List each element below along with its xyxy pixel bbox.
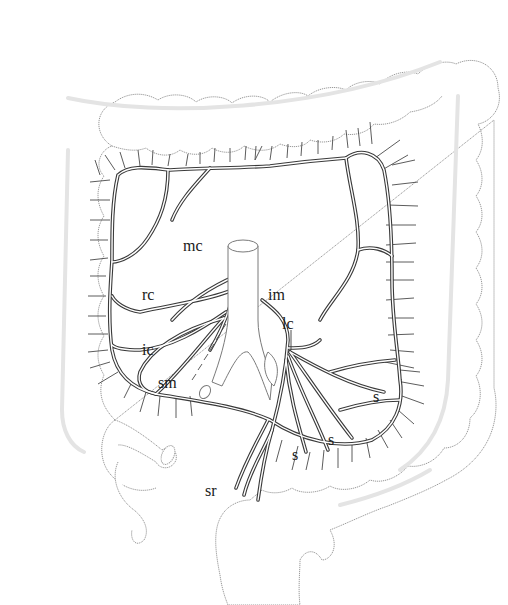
label-sigmoid-3: s [292, 447, 298, 463]
label-superior-mesenteric: sm [158, 375, 177, 391]
colon-outline [98, 60, 499, 605]
label-middle-colic: mc [183, 238, 203, 254]
colon-artery-diagram [0, 0, 508, 605]
label-sigmoid-2: s [328, 432, 334, 448]
label-ileocolic: ic [142, 342, 154, 358]
label-right-colic: rc [142, 287, 154, 303]
label-left-colic: lc [282, 316, 294, 332]
label-inferior-mesenteric: im [268, 287, 285, 303]
label-superior-rectal: sr [205, 483, 217, 499]
label-sigmoid-1: s [373, 389, 379, 405]
